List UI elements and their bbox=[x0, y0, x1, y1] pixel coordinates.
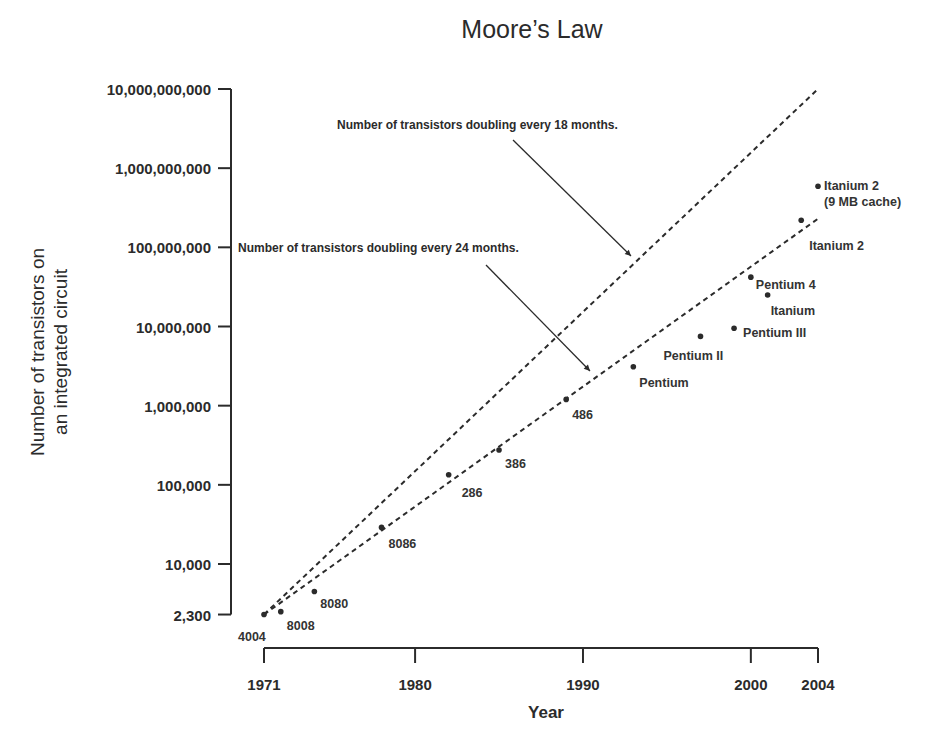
point-label: 8080 bbox=[320, 597, 348, 611]
x-tick-label: 2000 bbox=[734, 676, 767, 693]
y-tick-label: 1,000,000 bbox=[144, 398, 211, 415]
data-point: 8080 bbox=[312, 589, 349, 612]
point-label: Itanium 2 bbox=[824, 179, 879, 193]
point-marker bbox=[446, 472, 452, 478]
trend-line-24-months bbox=[264, 219, 818, 615]
annotations: Number of transistors doubling every 18 … bbox=[238, 118, 631, 371]
data-point: Itanium 2(9 MB cache) bbox=[815, 179, 901, 209]
y-axis-label-line-2: an integrated circuit bbox=[50, 268, 71, 435]
data-point: 8008 bbox=[278, 609, 315, 633]
point-marker bbox=[312, 589, 318, 595]
point-marker bbox=[278, 609, 284, 615]
data-point: Itanium 2 bbox=[798, 217, 864, 253]
x-tick-label: 1971 bbox=[247, 676, 280, 693]
point-marker bbox=[698, 334, 704, 340]
y-axis-label-line-1: Number of transistors on bbox=[27, 248, 48, 456]
y-tick-label: 10,000,000,000 bbox=[107, 81, 211, 98]
data-point: 386 bbox=[496, 447, 526, 471]
point-label: Itanium 2 bbox=[809, 239, 864, 253]
point-marker bbox=[815, 183, 821, 189]
data-point: 286 bbox=[446, 472, 483, 500]
point-label: Pentium II bbox=[663, 349, 723, 363]
x-tick-label: 1980 bbox=[398, 676, 431, 693]
annotation-leader-line bbox=[486, 265, 590, 371]
x-axis: 19711980199020002004 bbox=[247, 648, 835, 693]
point-marker bbox=[748, 274, 754, 280]
point-label: Pentium bbox=[639, 376, 688, 390]
data-point: Pentium II bbox=[663, 334, 723, 364]
point-marker bbox=[731, 325, 737, 331]
y-tick-label: 1,000,000,000 bbox=[115, 160, 211, 177]
point-marker bbox=[261, 612, 267, 618]
point-marker bbox=[379, 525, 385, 531]
point-label: 286 bbox=[462, 486, 483, 500]
y-tick-label: 10,000,000 bbox=[136, 319, 211, 336]
point-label: 4004 bbox=[238, 630, 266, 644]
data-point: Pentium 4 bbox=[748, 274, 816, 292]
x-axis-label: Year bbox=[528, 703, 564, 722]
point-label: 386 bbox=[505, 457, 526, 471]
point-label: Pentium 4 bbox=[756, 278, 816, 292]
point-marker bbox=[496, 447, 502, 453]
data-point: Pentium bbox=[631, 364, 689, 390]
y-tick-label: 100,000 bbox=[157, 477, 211, 494]
point-label-secondary: (9 MB cache) bbox=[824, 195, 901, 209]
y-axis: 2,30010,000100,0001,000,00010,000,000100… bbox=[107, 81, 231, 624]
point-label: Itanium bbox=[771, 304, 815, 318]
annotation-text: Number of transistors doubling every 18 … bbox=[337, 118, 618, 132]
data-point: 4004 bbox=[238, 612, 267, 644]
x-tick-label: 1990 bbox=[566, 676, 599, 693]
point-marker bbox=[563, 397, 569, 403]
point-label: 8008 bbox=[287, 619, 315, 633]
moores-law-chart: Moore’s Law Number of transistors on an … bbox=[0, 0, 937, 736]
point-marker bbox=[798, 217, 804, 223]
annotation-text: Number of transistors doubling every 24 … bbox=[238, 241, 519, 255]
x-tick-label: 2004 bbox=[801, 676, 835, 693]
point-label: 8086 bbox=[389, 537, 417, 551]
data-point: Pentium III bbox=[731, 325, 806, 340]
chart-title: Moore’s Law bbox=[461, 15, 603, 43]
y-tick-label: 10,000 bbox=[165, 556, 211, 573]
point-label: 486 bbox=[572, 408, 593, 422]
annotation-leader-line bbox=[513, 140, 631, 256]
y-axis-label: Number of transistors on an integrated c… bbox=[27, 248, 71, 456]
y-tick-label: 2,300 bbox=[173, 607, 211, 624]
data-point: 486 bbox=[563, 397, 593, 423]
point-marker bbox=[631, 364, 637, 370]
data-point: Itanium bbox=[765, 292, 815, 318]
point-marker bbox=[765, 292, 771, 298]
point-label: Pentium III bbox=[743, 326, 806, 340]
y-tick-label: 100,000,000 bbox=[128, 239, 211, 256]
